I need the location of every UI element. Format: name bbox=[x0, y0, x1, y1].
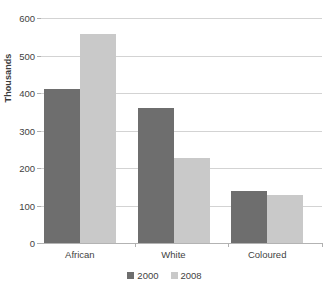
y-tick-label-100: 100 bbox=[19, 200, 35, 211]
bar-coloured-2008[interactable] bbox=[267, 195, 303, 243]
bar-african-2000[interactable] bbox=[44, 89, 80, 244]
bar-white-2008[interactable] bbox=[174, 158, 210, 243]
x-tick-1 bbox=[228, 243, 229, 247]
y-tick-0 bbox=[37, 243, 41, 244]
gridline-0 bbox=[41, 243, 322, 244]
y-tick-label-200: 200 bbox=[19, 163, 35, 174]
x-tick-0 bbox=[135, 243, 136, 247]
x-axis-label-african: African bbox=[65, 249, 95, 260]
legend-swatch-icon-2000 bbox=[127, 272, 134, 279]
bar-white-2000[interactable] bbox=[138, 108, 174, 243]
y-tick-label-0: 0 bbox=[30, 238, 35, 249]
chart-legend: 20002008 bbox=[0, 270, 329, 281]
bar-african-2008[interactable] bbox=[80, 34, 116, 243]
bar-coloured-2000[interactable] bbox=[231, 191, 267, 244]
legend-item-2008[interactable]: 2008 bbox=[171, 270, 202, 281]
plot-area: 0100200300400500600 bbox=[41, 18, 322, 243]
y-tick-label-500: 500 bbox=[19, 50, 35, 61]
legend-item-2000[interactable]: 2000 bbox=[127, 270, 158, 281]
x-axis-label-coloured: Coloured bbox=[248, 249, 287, 260]
bars-layer bbox=[41, 18, 322, 243]
bar-chart: Thousands 0100200300400500600 AfricanWhi… bbox=[0, 0, 329, 293]
x-tick-2 bbox=[322, 243, 323, 247]
legend-label-2000: 2000 bbox=[137, 270, 158, 281]
y-tick-label-400: 400 bbox=[19, 88, 35, 99]
y-axis-title-label: Thousands bbox=[3, 54, 13, 103]
y-tick-label-600: 600 bbox=[19, 13, 35, 24]
y-axis-title: Thousands bbox=[0, 18, 16, 138]
y-tick-label-300: 300 bbox=[19, 125, 35, 136]
legend-label-2008: 2008 bbox=[181, 270, 202, 281]
legend-swatch-icon-2008 bbox=[171, 272, 178, 279]
x-axis-label-white: White bbox=[161, 249, 185, 260]
